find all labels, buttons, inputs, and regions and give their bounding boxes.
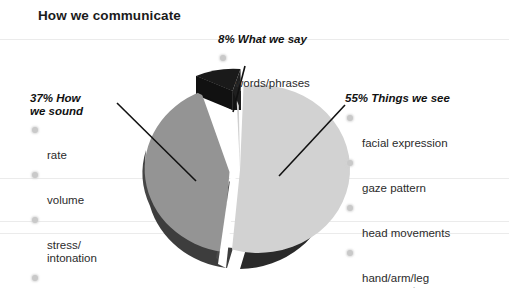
list-item: rate	[30, 123, 142, 162]
list-item-label: words/phrases	[235, 77, 310, 89]
bullet-dot-icon	[32, 217, 38, 223]
bullet-dot-icon	[220, 55, 226, 61]
bullet-dot-icon	[32, 127, 38, 133]
pie-slice-see	[232, 85, 350, 253]
callout-how-we-sound: 37% How we sound rate volume stress/ int…	[30, 92, 142, 288]
list-item: head movements	[345, 201, 509, 240]
bullet-list-sound: rate volume stress/ intonation pitch flu…	[30, 123, 142, 288]
bullet-dot-icon	[347, 115, 353, 121]
list-item-label: gaze pattern	[362, 182, 426, 194]
list-item-label: volume	[47, 194, 84, 206]
list-item: facial expression	[345, 111, 509, 150]
bullet-dot-icon	[32, 275, 38, 281]
list-item: words/phrases	[218, 51, 378, 90]
list-item-label: head movements	[362, 227, 450, 239]
list-item-label: facial expression	[362, 137, 448, 149]
bullet-list-say: words/phrases	[218, 51, 378, 90]
callout-heading-sound: 37% How we sound	[30, 92, 142, 117]
bullet-dot-icon	[347, 250, 353, 256]
callout-what-we-say: 8% What we say words/phrases	[218, 33, 378, 90]
bullet-dot-icon	[347, 160, 353, 166]
list-item: pitch	[30, 271, 142, 288]
bullet-dot-icon	[32, 172, 38, 178]
bullet-list-see: facial expression gaze pattern head move…	[345, 111, 509, 288]
callout-heading-say: 8% What we say	[218, 33, 378, 46]
list-item-label: stress/ intonation	[47, 239, 97, 264]
slide-canvas: How we communicate 8% What we sa	[0, 0, 509, 288]
list-item-label: rate	[47, 149, 67, 161]
list-item: stress/ intonation	[30, 213, 142, 265]
callout-things-we-see: 55% Things we see facial expression gaze…	[345, 92, 509, 288]
list-item: volume	[30, 168, 142, 207]
callout-heading-see: 55% Things we see	[345, 92, 509, 105]
bullet-dot-icon	[347, 205, 353, 211]
list-item: hand/arm/leg movements	[345, 246, 509, 288]
list-item-label: hand/arm/leg movements	[362, 272, 429, 288]
list-item: gaze pattern	[345, 156, 509, 195]
